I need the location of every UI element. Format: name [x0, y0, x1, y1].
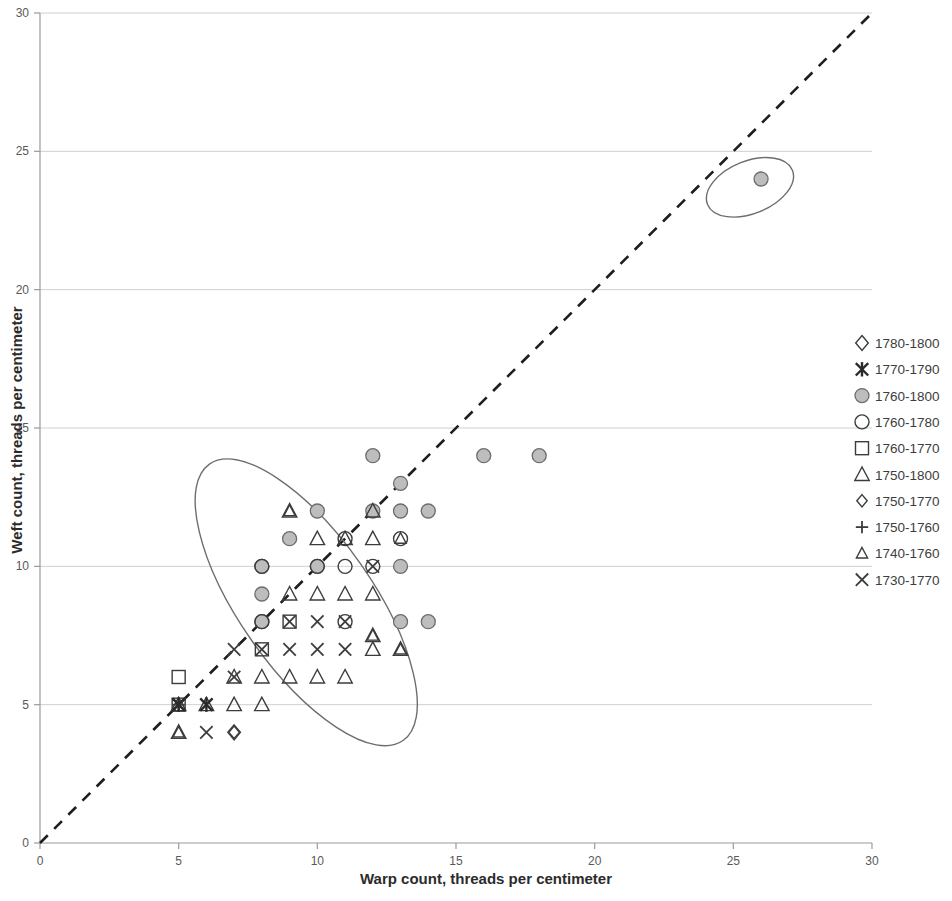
legend-marker-diamond-small [857, 495, 867, 507]
data-point [366, 531, 380, 545]
x-tick-label-0: 0 [37, 854, 44, 868]
data-point [255, 697, 269, 711]
data-point [366, 587, 380, 601]
marker-circle-filled [421, 615, 435, 629]
y-tick-label-5: 5 [22, 698, 29, 712]
legend-marker-triangle-small [856, 547, 867, 558]
legend-label: 1750-1760 [875, 520, 940, 535]
data-point [395, 533, 406, 544]
y-tick-label-10: 10 [16, 559, 30, 573]
marker-circle-filled [477, 449, 491, 463]
marker-circle-open [855, 415, 869, 429]
marker-square-open [856, 442, 869, 455]
scatter-chart: 051015202530051015202530 1780-18001770-1… [0, 0, 952, 901]
legend-item-1760-1770[interactable]: 1760-1770 [856, 441, 940, 456]
marker-circle-filled [394, 476, 408, 490]
legend-item-1750-1800[interactable]: 1750-1800 [855, 467, 940, 483]
legend-label: 1760-1800 [875, 389, 940, 404]
x-axis-title: Warp count, threads per centimeter [360, 870, 612, 887]
legend-label: 1760-1780 [875, 415, 940, 430]
marker-diamond-open [856, 336, 869, 351]
plot-canvas: 051015202530051015202530 1780-18001770-1… [0, 0, 952, 901]
marker-triangle-open [366, 642, 380, 656]
legend-marker-diamond-open [856, 336, 869, 351]
series-1760-1800 [255, 172, 768, 629]
data-point [310, 531, 324, 545]
series-1760-1780 [255, 532, 408, 629]
marker-square-open [172, 671, 185, 684]
data-point [366, 449, 380, 463]
legend-item-1730-1770[interactable]: 1730-1770 [856, 573, 940, 588]
data-points-group [171, 172, 768, 740]
marker-triangle-open [310, 670, 324, 684]
marker-triangle-open [255, 697, 269, 711]
marker-circle-filled [394, 559, 408, 573]
marker-triangle-open [255, 670, 269, 684]
data-point [339, 615, 351, 627]
legend-marker-plus [856, 521, 868, 533]
legend-label: 1770-1790 [875, 362, 940, 377]
legend-item-1760-1800[interactable]: 1760-1800 [855, 389, 940, 404]
legend-marker-triangle-open [855, 467, 869, 481]
data-point [338, 587, 352, 601]
series-1750-1770 [229, 726, 239, 738]
data-point [311, 643, 323, 655]
y-axis-title: Weft count, threads per centimeter [8, 306, 25, 553]
data-point [283, 615, 295, 627]
y-tick-label-0: 0 [22, 836, 29, 850]
data-point [754, 172, 768, 186]
marker-triangle-small [856, 547, 867, 558]
data-point [200, 726, 212, 738]
legend-label: 1740-1760 [875, 546, 940, 561]
legend-label: 1760-1770 [875, 441, 940, 456]
data-point [532, 449, 546, 463]
marker-triangle-open [227, 697, 241, 711]
legend-item-1770-1790[interactable]: 1770-1790 [856, 362, 940, 377]
legend-item-1750-1770[interactable]: 1750-1770 [857, 494, 940, 509]
data-point [255, 670, 269, 684]
data-point [477, 449, 491, 463]
marker-circle-filled [310, 504, 324, 518]
marker-circle-filled [366, 504, 380, 518]
data-point [421, 615, 435, 629]
data-point [229, 726, 239, 738]
data-point [339, 643, 351, 655]
data-point [421, 504, 435, 518]
outlier-ellipse [698, 146, 803, 229]
marker-triangle-open [310, 531, 324, 545]
legend-marker-square-open [856, 442, 869, 455]
marker-triangle-open [310, 587, 324, 601]
marker-circle-filled [855, 389, 869, 403]
marker-circle-filled [283, 532, 297, 546]
data-point [227, 697, 241, 711]
x-tick-label-25: 25 [727, 854, 741, 868]
cluster-annotation-ellipses [155, 146, 802, 779]
legend-item-1750-1760[interactable]: 1750-1760 [856, 520, 940, 535]
marker-triangle-open [366, 531, 380, 545]
marker-circle-filled [394, 615, 408, 629]
gridlines-group [40, 13, 872, 705]
marker-triangle-open [855, 467, 869, 481]
legend-label: 1730-1770 [875, 573, 940, 588]
data-point [394, 559, 408, 573]
marker-circle-filled [255, 587, 269, 601]
marker-triangle-open [366, 587, 380, 601]
data-point [283, 532, 297, 546]
legend-label: 1750-1800 [875, 468, 940, 483]
legend-item-1780-1800[interactable]: 1780-1800 [856, 336, 940, 352]
data-point [394, 615, 408, 629]
data-point [394, 504, 408, 518]
legend-item-1740-1760[interactable]: 1740-1760 [856, 546, 939, 561]
marker-circle-filled [421, 504, 435, 518]
legend-marker-circle-open [855, 415, 869, 429]
legend-label: 1780-1800 [875, 336, 940, 351]
main-cluster-ellipse [155, 426, 458, 779]
marker-circle-filled [532, 449, 546, 463]
marker-circle-filled [366, 449, 380, 463]
data-point [366, 642, 380, 656]
data-point [394, 476, 408, 490]
y-tick-label-30: 30 [16, 6, 30, 20]
data-point [310, 504, 324, 518]
marker-circle-filled [394, 504, 408, 518]
data-point [366, 504, 380, 518]
